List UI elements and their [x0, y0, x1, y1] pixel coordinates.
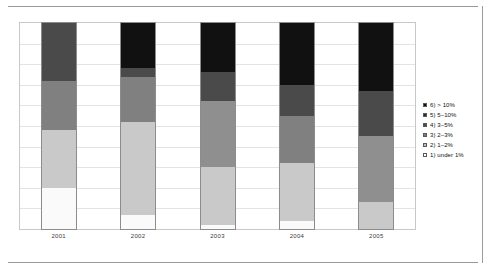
bar-segment[interactable]	[201, 225, 235, 229]
bar-segment[interactable]	[280, 85, 314, 116]
stacked-bar-2003[interactable]	[200, 22, 236, 230]
x-tick-label-2001: 2001	[19, 233, 98, 247]
legend-item-label: 6) > 10%	[430, 102, 455, 108]
stacked-bar-2002[interactable]	[120, 22, 156, 230]
chart-plot-area	[19, 22, 416, 230]
bar-segment[interactable]	[280, 116, 314, 163]
bar-segment[interactable]	[359, 136, 393, 202]
bar-segment[interactable]	[201, 167, 235, 225]
bar-segment[interactable]	[121, 77, 155, 122]
legend-item[interactable]: 2) 1–2%	[423, 140, 485, 150]
bar-segment[interactable]	[42, 23, 76, 81]
legend-swatch-icon	[423, 153, 427, 157]
bar-segment[interactable]	[201, 72, 235, 101]
bar-segment[interactable]	[280, 163, 314, 221]
bar-segment[interactable]	[121, 68, 155, 76]
bar-segment[interactable]	[359, 202, 393, 229]
bar-segment[interactable]	[280, 23, 314, 85]
bar-slot-2004	[257, 22, 336, 230]
x-axis-labels: 20012002200320042005	[19, 233, 416, 247]
stacked-bar-2001[interactable]	[41, 22, 77, 230]
x-tick-label-2005: 2005	[337, 233, 416, 247]
bar-segment[interactable]	[121, 23, 155, 68]
stacked-bar-2004[interactable]	[279, 22, 315, 230]
legend-item-label: 4) 3–5%	[430, 122, 453, 128]
x-tick-label-2002: 2002	[98, 233, 177, 247]
x-tick-label-2003: 2003	[178, 233, 257, 247]
legend-item-label: 2) 1–2%	[430, 142, 453, 148]
legend-item-label: 1) under 1%	[430, 152, 464, 158]
bar-segment[interactable]	[121, 122, 155, 215]
x-tick-label-2004: 2004	[257, 233, 336, 247]
legend-item[interactable]: 5) 5–10%	[423, 110, 485, 120]
page-top-rule	[8, 6, 478, 7]
bar-slot-2001	[19, 22, 98, 230]
legend-item[interactable]: 6) > 10%	[423, 100, 485, 110]
legend-item-label: 5) 5–10%	[430, 112, 457, 118]
legend-item[interactable]: 3) 2–3%	[423, 130, 485, 140]
bar-segment[interactable]	[280, 221, 314, 229]
chart-legend: 6) > 10%5) 5–10%4) 3–5%3) 2–3%2) 1–2%1) …	[423, 100, 485, 160]
page-bottom-rule	[8, 262, 478, 263]
bar-segment[interactable]	[42, 81, 76, 130]
bar-segment[interactable]	[42, 188, 76, 229]
bar-segment[interactable]	[359, 91, 393, 136]
bar-segment[interactable]	[42, 130, 76, 188]
bar-slot-2002	[98, 22, 177, 230]
bar-segment[interactable]	[201, 101, 235, 167]
legend-item-label: 3) 2–3%	[430, 132, 453, 138]
legend-swatch-icon	[423, 123, 427, 127]
legend-swatch-icon	[423, 133, 427, 137]
bar-segment[interactable]	[359, 23, 393, 91]
bar-slot-2003	[178, 22, 257, 230]
page-container: 20012002200320042005 6) > 10%5) 5–10%4) …	[0, 0, 491, 273]
legend-item[interactable]: 4) 3–5%	[423, 120, 485, 130]
bar-segment[interactable]	[121, 215, 155, 229]
legend-swatch-icon	[423, 113, 427, 117]
bar-slot-2005	[337, 22, 416, 230]
legend-item[interactable]: 1) under 1%	[423, 150, 485, 160]
bar-segment[interactable]	[201, 23, 235, 72]
stacked-bar-2005[interactable]	[358, 22, 394, 230]
legend-swatch-icon	[423, 103, 427, 107]
legend-swatch-icon	[423, 143, 427, 147]
